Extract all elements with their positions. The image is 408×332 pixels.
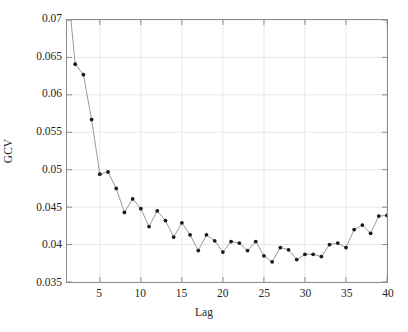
- y-axis-tick-labels: 0.0350.040.0450.050.0550.060.0650.07: [0, 0, 62, 332]
- data-point: [123, 210, 127, 214]
- x-tick-label: 5: [96, 288, 102, 300]
- data-point: [360, 223, 364, 227]
- plot-area: [66, 19, 388, 283]
- x-tick-label: 20: [217, 288, 229, 300]
- data-point: [328, 243, 332, 247]
- y-tick-label: 0.06: [42, 88, 62, 100]
- data-point: [172, 235, 176, 239]
- y-tick-label: 0.045: [36, 202, 62, 214]
- data-point: [319, 255, 323, 259]
- data-point: [205, 233, 209, 237]
- x-tick-label: 25: [258, 288, 270, 300]
- data-point: [82, 73, 86, 77]
- y-tick-label: 0.055: [36, 126, 62, 138]
- y-tick-label: 0.07: [42, 13, 62, 25]
- data-point: [147, 225, 151, 229]
- data-point: [344, 246, 348, 250]
- data-point: [73, 62, 77, 66]
- data-point: [114, 187, 118, 191]
- data-point: [98, 172, 102, 176]
- data-point: [377, 214, 381, 218]
- y-tick-label: 0.05: [42, 164, 62, 176]
- data-point: [262, 254, 266, 258]
- x-tick-label: 35: [341, 288, 353, 300]
- data-point: [139, 207, 143, 211]
- y-axis-title: GCV: [2, 139, 14, 163]
- data-point: [213, 239, 217, 243]
- x-tick-label: 40: [382, 288, 394, 300]
- data-point: [90, 118, 94, 122]
- series-line: [67, 20, 387, 262]
- data-point: [221, 250, 225, 254]
- data-point: [106, 170, 110, 174]
- data-point: [196, 249, 200, 253]
- data-point: [385, 213, 387, 217]
- data-point: [155, 209, 159, 213]
- data-point: [164, 219, 168, 223]
- data-point: [180, 221, 184, 225]
- x-tick-label: 30: [300, 288, 312, 300]
- data-point: [311, 252, 315, 256]
- data-point: [237, 241, 241, 245]
- data-point: [336, 241, 340, 245]
- data-series-gcv: [67, 20, 387, 282]
- data-point: [352, 228, 356, 232]
- data-point: [246, 249, 250, 253]
- data-point: [254, 240, 258, 244]
- data-point: [131, 197, 135, 201]
- x-axis-title: Lag: [0, 306, 408, 318]
- data-point: [303, 252, 307, 256]
- y-tick-label: 0.065: [36, 51, 62, 63]
- data-point: [369, 231, 373, 235]
- data-point: [188, 233, 192, 237]
- x-tick-label: 15: [176, 288, 188, 300]
- data-point: [270, 260, 274, 264]
- data-point: [229, 240, 233, 244]
- data-point: [295, 258, 299, 262]
- figure-canvas: 0.0350.040.0450.050.0550.060.0650.07 510…: [0, 0, 408, 332]
- y-tick-label: 0.035: [36, 277, 62, 289]
- data-point: [287, 248, 291, 252]
- data-point: [278, 246, 282, 250]
- x-tick-label: 10: [135, 288, 147, 300]
- y-tick-label: 0.04: [42, 239, 62, 251]
